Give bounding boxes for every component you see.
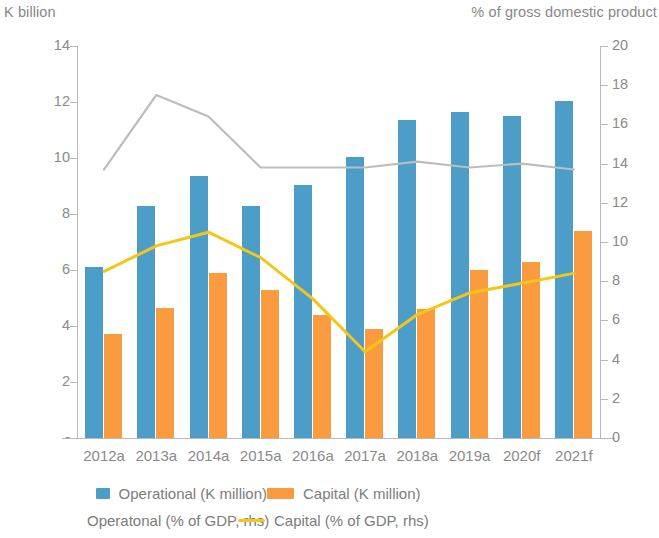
left-axis-tickmark (70, 382, 77, 383)
x-axis-tick-label: 2021f (544, 447, 604, 464)
x-axis-tick-label: 2016a (283, 447, 343, 464)
right-axis-tick-label: 6 (612, 312, 652, 327)
left-axis-tickmark (70, 270, 77, 271)
bar-group (294, 46, 334, 438)
operational-bar[interactable] (555, 101, 573, 438)
bar-group (190, 46, 230, 438)
right-axis-tick-label: 20 (612, 38, 652, 53)
capital-line-swatch-icon (238, 519, 265, 522)
left-axis-tickmark (70, 158, 77, 159)
left-axis-tick-label: - (22, 430, 70, 445)
legend-row-lines: Operatonal (% of GDP, rhs) Capital (% of… (78, 507, 596, 534)
legend-row-bars: Operational (K million) Capital (K milli… (96, 480, 596, 507)
right-axis-tickmark (601, 124, 608, 125)
x-axis-tick-label: 2020f (492, 447, 552, 464)
bar-group (503, 46, 543, 438)
left-axis-ticks: -2468101214 (14, 0, 70, 538)
right-axis-tick-label: 14 (612, 156, 652, 171)
operational-bar[interactable] (242, 206, 260, 438)
legend-label-capital-bar: Capital (K million) (303, 485, 421, 502)
operational-bar[interactable] (85, 267, 103, 438)
left-axis-tickmark (70, 326, 77, 327)
right-axis-tick-label: 10 (612, 234, 652, 249)
operational-bar[interactable] (398, 120, 416, 438)
x-axis-tick-label: 2013a (126, 447, 186, 464)
legend-item-capital-line[interactable]: Capital (% of GDP, rhs) (238, 512, 429, 529)
right-axis-tickmark (601, 164, 608, 165)
operational-bar[interactable] (346, 157, 364, 438)
bar-group (242, 46, 282, 438)
right-axis-tickmark (601, 85, 608, 86)
right-axis-tick-label: 16 (612, 116, 652, 131)
right-axis-tickmark (601, 242, 608, 243)
operational-bar[interactable] (503, 116, 521, 438)
capital-bar[interactable] (417, 309, 435, 438)
left-axis-tickmark (70, 46, 77, 47)
left-axis-tick-label: 12 (22, 94, 70, 109)
operational-bar[interactable] (294, 185, 312, 438)
legend-item-capital-bar[interactable]: Capital (K million) (267, 485, 421, 502)
capital-bar[interactable] (470, 270, 488, 438)
right-axis-tick-label: 12 (612, 195, 652, 210)
operational-bar-swatch-icon (96, 488, 110, 499)
left-axis-tick-label: 2 (22, 374, 70, 389)
x-axis-tick-label: 2019a (440, 447, 500, 464)
left-axis-tickmark (70, 214, 77, 215)
capital-bar[interactable] (209, 273, 227, 438)
capital-bar-swatch-icon (267, 488, 294, 499)
operational-bar[interactable] (137, 206, 155, 438)
left-axis-tickmark (70, 438, 77, 439)
x-axis-tick-label: 2015a (231, 447, 291, 464)
capital-bar[interactable] (574, 231, 592, 438)
bar-group (85, 46, 125, 438)
right-axis-tickmark (601, 320, 608, 321)
right-axis-tickmark (601, 399, 608, 400)
bar-group (555, 46, 595, 438)
right-axis-tickmark (601, 46, 608, 47)
bar-group (398, 46, 438, 438)
chart-legend: Operational (K million) Capital (K milli… (96, 480, 596, 534)
capital-bar[interactable] (261, 290, 279, 438)
legend-label-operational-bar: Operational (K million) (119, 485, 267, 502)
right-axis-ticks: 02468101214161820 (612, 0, 658, 538)
legend-item-operational-line[interactable]: Operatonal (% of GDP, rhs) (78, 512, 238, 529)
capital-bar[interactable] (104, 334, 122, 438)
x-axis-baseline (62, 438, 615, 439)
left-axis-tick-label: 6 (22, 262, 70, 277)
left-axis-line (77, 46, 78, 439)
x-axis-tick-label: 2017a (335, 447, 395, 464)
right-axis-tick-label: 8 (612, 273, 652, 288)
bar-group (137, 46, 177, 438)
right-axis-tick-label: 0 (612, 430, 652, 445)
x-axis-tick-label: 2012a (74, 447, 134, 464)
right-axis-tick-label: 2 (612, 391, 652, 406)
right-axis-tickmark (601, 360, 608, 361)
bar-group (346, 46, 386, 438)
legend-item-operational-bar[interactable]: Operational (K million) (96, 485, 267, 502)
right-axis-tickmark (601, 203, 608, 204)
capital-bar[interactable] (522, 262, 540, 438)
left-axis-tick-label: 14 (22, 38, 70, 53)
bar-group (451, 46, 491, 438)
x-axis-tick-label: 2018a (387, 447, 447, 464)
legend-label-capital-line: Capital (% of GDP, rhs) (274, 512, 429, 529)
left-axis-tickmark (70, 102, 77, 103)
x-axis-tick-label: 2014a (179, 447, 239, 464)
right-axis-tickmark (601, 281, 608, 282)
operational-bar[interactable] (190, 176, 208, 438)
right-axis-tickmark (601, 438, 608, 439)
capital-bar[interactable] (313, 315, 331, 438)
capital-bar[interactable] (156, 308, 174, 438)
operational-bar[interactable] (451, 112, 469, 438)
right-axis-tick-label: 18 (612, 77, 652, 92)
left-axis-tick-label: 8 (22, 206, 70, 221)
right-axis-tick-label: 4 (612, 352, 652, 367)
left-axis-tick-label: 10 (22, 150, 70, 165)
capital-bar[interactable] (365, 329, 383, 438)
left-axis-tick-label: 4 (22, 318, 70, 333)
chart-container: K billion % of gross domestic product -2… (0, 0, 659, 538)
